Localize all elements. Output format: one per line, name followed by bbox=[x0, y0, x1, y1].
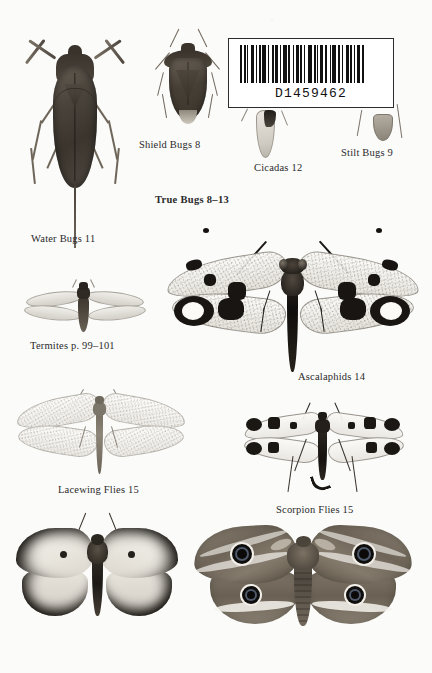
caption-termites: Termites p. 99–101 bbox=[30, 340, 115, 351]
ascalaphid-eye-right bbox=[298, 259, 307, 270]
figure-emperor-moth bbox=[182, 518, 424, 650]
scorpion-fly-head bbox=[318, 412, 327, 421]
ascalaphid-wing-spot bbox=[218, 298, 244, 320]
moth-eyespot-forewing-right bbox=[352, 542, 376, 566]
figure-water-bug bbox=[20, 28, 130, 233]
caption-stilt-bugs: Stilt Bugs 9 bbox=[341, 147, 393, 158]
moth-eyespot-pupil bbox=[351, 591, 359, 599]
scorpion-fly-wing-spot bbox=[268, 417, 280, 429]
stilt-bug-body bbox=[373, 114, 393, 141]
termite-abdomen bbox=[78, 296, 89, 332]
shield-bug-leg bbox=[162, 94, 167, 118]
butterfly-forewing-border-right bbox=[100, 528, 178, 578]
shield-bug-antenna bbox=[170, 29, 180, 47]
moth-eyespot-hindwing-left bbox=[240, 584, 262, 606]
scorpion-fly-wing-spot bbox=[246, 418, 262, 431]
scorpion-fly-leg bbox=[287, 456, 293, 492]
ascalaphid-antenna-club-right bbox=[376, 228, 382, 233]
moth-eyespot-pupil bbox=[359, 549, 369, 559]
caption-shield-bugs: Shield Bugs 8 bbox=[139, 139, 201, 150]
caption-scorpion-flies: Scorpion Flies 15 bbox=[276, 504, 354, 515]
lacewing-thorax bbox=[93, 402, 106, 416]
figure-scorpion-fly bbox=[240, 408, 412, 504]
shield-bug-leg bbox=[157, 72, 164, 96]
ascalaphid-wing-spot bbox=[368, 274, 380, 286]
scorpion-fly-wing-spot bbox=[384, 442, 400, 455]
cicada-leg bbox=[241, 108, 248, 121]
ascalaphid-hindwing-eye-left bbox=[182, 302, 204, 320]
caption-lacewing-flies: Lacewing Flies 15 bbox=[58, 484, 139, 495]
termite-hindwing-right bbox=[87, 303, 146, 323]
butterfly-head bbox=[91, 534, 104, 545]
stilt-bug-leg bbox=[397, 104, 403, 138]
ascalaphid-antenna-club-left bbox=[203, 228, 209, 233]
moth-eyespot-pupil bbox=[247, 591, 255, 599]
lacewing-abdomen bbox=[96, 408, 103, 474]
barcode-bars bbox=[240, 45, 382, 83]
figure-ascalaphid bbox=[162, 232, 424, 380]
caption-cicadas: Cicadas 12 bbox=[254, 162, 302, 173]
caption-water-bugs: Water Bugs 11 bbox=[31, 233, 95, 244]
scorpion-fly-wing-spot bbox=[290, 422, 297, 429]
scorpion-fly-wing-spot bbox=[366, 442, 377, 453]
plate-page: Water Bugs 11 Shield Bugs 8 bbox=[0, 0, 432, 673]
moth-head bbox=[296, 536, 311, 547]
ascalaphid-eye-left bbox=[279, 259, 288, 270]
shield-bug-leg bbox=[208, 94, 213, 118]
cicada-leg bbox=[281, 110, 288, 125]
figure-lacewing-fly bbox=[14, 392, 188, 484]
scorpion-fly-wing-spot bbox=[364, 417, 376, 429]
shield-bug-antenna bbox=[198, 29, 208, 47]
shield-bug-leg bbox=[211, 72, 218, 96]
lacewing-head bbox=[95, 396, 104, 404]
caption-ascalaphids: Ascalaphids 14 bbox=[298, 371, 365, 382]
scorpion-fly-wing-spot bbox=[268, 442, 279, 453]
figure-shield-bug bbox=[152, 30, 224, 134]
scorpion-fly-thorax bbox=[315, 419, 330, 433]
moth-eyespot-forewing-left bbox=[230, 542, 254, 566]
butterfly-forewing-spot-right bbox=[128, 551, 135, 558]
ascalaphid-wing-spot bbox=[204, 274, 216, 286]
butterfly-forewing-spot-left bbox=[60, 551, 67, 558]
moth-eyespot-hindwing-right bbox=[344, 584, 366, 606]
figure-butterfly bbox=[8, 516, 186, 644]
shield-bug-abdomen-tip bbox=[179, 110, 197, 124]
water-bug-leg bbox=[32, 120, 42, 160]
moth-eyespot-pupil bbox=[237, 549, 247, 559]
ascalaphid-hindwing-eye-right bbox=[380, 302, 402, 320]
butterfly-forewing-border-left bbox=[16, 528, 94, 578]
figure-termite bbox=[18, 282, 152, 338]
heading-true-bugs: True Bugs 8–13 bbox=[155, 194, 229, 205]
library-barcode-sticker: D1459462 bbox=[228, 38, 394, 108]
scorpion-fly-wing-spot bbox=[384, 418, 400, 431]
termite-hindwing-left bbox=[23, 303, 82, 323]
termite-antenna bbox=[72, 279, 77, 288]
termite-head bbox=[79, 282, 88, 290]
scorpion-fly-wing-spot bbox=[348, 422, 355, 429]
scorpion-fly-genital-bulb bbox=[310, 472, 331, 493]
stilt-bug-leg bbox=[357, 110, 362, 136]
termite-antenna bbox=[90, 279, 95, 288]
ascalaphid-wing-spot bbox=[340, 298, 366, 320]
scorpion-fly-wing-spot bbox=[246, 442, 262, 455]
barcode-number: D1459462 bbox=[275, 86, 347, 101]
figure-cicada bbox=[238, 108, 298, 162]
